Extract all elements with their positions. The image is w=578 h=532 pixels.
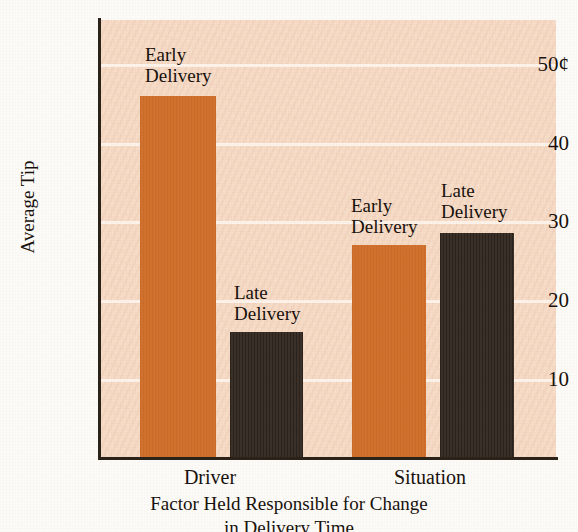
bar-situation-early[interactable] [352, 245, 426, 458]
y-tick-label-10: 10 [475, 369, 578, 390]
y-tick-label-40: 40 [475, 133, 578, 154]
bar-label-driver-early: Early Delivery [145, 44, 211, 87]
x-axis-title-line-1: Factor Held Responsible for Change [150, 493, 428, 514]
bar-driver-late[interactable] [230, 332, 303, 458]
bar-situation-late[interactable] [440, 233, 514, 458]
plot-area: Early Delivery Late Delivery Early Deliv… [101, 20, 556, 458]
y-tick-label-50: 50¢ [475, 54, 578, 75]
bar-label-situation-early: Early Delivery [351, 195, 417, 238]
bar-chart-figure: Early Delivery Late Delivery Early Deliv… [0, 0, 578, 532]
bar-label-driver-late: Late Delivery [234, 282, 300, 325]
y-tick-label-30: 30 [475, 211, 578, 232]
x-group-label-situation: Situation [365, 466, 495, 489]
x-axis-title-line-2: in Delivery Time [0, 516, 578, 532]
y-axis-title: Average Tip [17, 137, 39, 277]
x-axis-title: Factor Held Responsible for Change in De… [0, 492, 578, 532]
y-axis-line [98, 18, 101, 460]
bar-driver-early[interactable] [140, 96, 216, 458]
x-group-label-driver: Driver [150, 466, 270, 489]
y-tick-label-20: 20 [475, 290, 578, 311]
x-axis-line [98, 457, 558, 460]
